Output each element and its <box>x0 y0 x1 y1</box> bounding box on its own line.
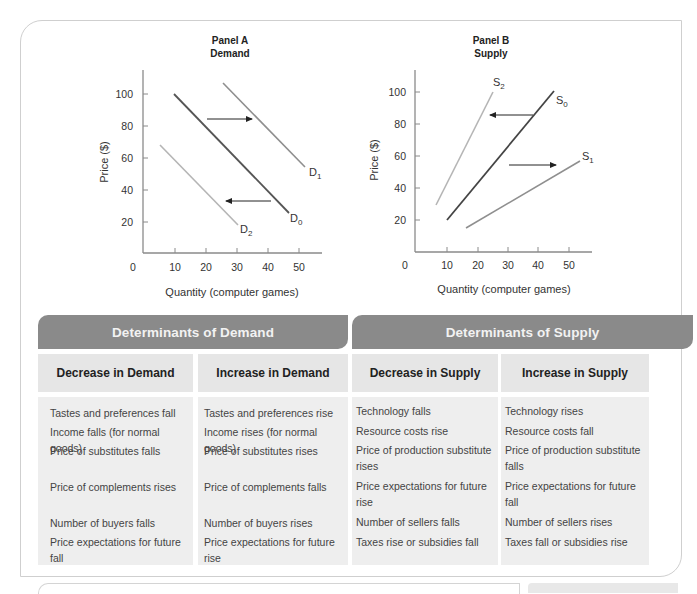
y-tick-labels: 100 80 60 40 20 <box>388 86 406 226</box>
svg-text:30: 30 <box>502 259 514 271</box>
label-d2: D2 <box>240 223 253 238</box>
supply-group-header: Determinants of Supply <box>352 315 693 349</box>
table-cell: Price of substitutes falls <box>50 443 187 459</box>
svg-text:20: 20 <box>121 216 133 228</box>
table-cell: Taxes fall or subsidies rise <box>505 534 643 550</box>
svg-text:40: 40 <box>532 259 544 271</box>
label-s0: S0 <box>556 94 568 109</box>
next-section-frame <box>38 583 520 594</box>
panel-a-x-axis-label: Quantity (computer games) <box>165 286 298 298</box>
decrease-supply-column: Technology falls Resource costs rise Pri… <box>352 397 498 565</box>
decrease-demand-header: Decrease in Demand <box>38 354 193 392</box>
svg-text:10: 10 <box>441 259 453 271</box>
svg-text:10: 10 <box>169 261 181 273</box>
table-cell: Number of sellers falls <box>356 514 492 530</box>
table-cell: Taxes rise or subsidies fall <box>356 534 492 550</box>
table-cell: Price expectations for future rise <box>204 534 342 566</box>
svg-text:40: 40 <box>394 182 406 194</box>
increase-supply-header: Increase in Supply <box>501 354 649 392</box>
table-cell: Tastes and preferences fall <box>50 405 187 421</box>
increase-supply-column: Technology rises Resource costs fall Pri… <box>501 397 649 565</box>
table-cell: Price expectations for future fall <box>50 534 187 566</box>
svg-text:100: 100 <box>388 86 406 98</box>
svg-text:50: 50 <box>293 261 305 273</box>
svg-text:0: 0 <box>402 259 408 271</box>
label-d0: D0 <box>290 212 303 227</box>
svg-text:50: 50 <box>563 259 575 271</box>
label-d1: D1 <box>309 166 322 181</box>
table-cell: Number of buyers falls <box>50 515 187 531</box>
table-cell: Price of substitutes rises <box>204 443 342 459</box>
svg-text:80: 80 <box>121 120 133 132</box>
svg-text:20: 20 <box>394 214 406 226</box>
demand-curve-d1 <box>223 83 305 167</box>
x-tick-labels: 0 10 20 30 40 50 <box>402 259 575 271</box>
table-cell: Price expectations for future fall <box>505 478 643 510</box>
table-cell: Tastes and preferences rise <box>204 405 342 421</box>
demand-curve-d0 <box>174 94 289 213</box>
svg-text:40: 40 <box>121 184 133 196</box>
demand-group-header: Determinants of Demand <box>38 315 348 349</box>
supply-curve-s2 <box>436 92 493 205</box>
svg-text:20: 20 <box>200 261 212 273</box>
panel-a-demand-chart: Panel A Demand 100 80 60 40 20 0 10 20 3… <box>98 35 322 298</box>
svg-text:80: 80 <box>394 118 406 130</box>
svg-text:60: 60 <box>121 152 133 164</box>
x-ticks <box>175 248 299 253</box>
panel-b-supply-chart: Panel B Supply 100 80 60 40 20 0 10 20 3… <box>368 35 594 295</box>
table-cell: Price of complements falls <box>204 479 342 495</box>
svg-text:40: 40 <box>262 261 274 273</box>
decrease-supply-header: Decrease in Supply <box>352 354 498 392</box>
table-cell: Resource costs rise <box>356 423 492 439</box>
table-cell: Number of buyers rises <box>204 515 342 531</box>
svg-text:30: 30 <box>231 261 243 273</box>
label-s2: S2 <box>493 76 505 91</box>
panel-a-y-axis-label: Price ($) <box>98 141 110 183</box>
svg-text:60: 60 <box>394 150 406 162</box>
increase-demand-column: Tastes and preferences rise Income rises… <box>198 397 348 565</box>
svg-text:20: 20 <box>472 259 484 271</box>
charts-svg: Panel A Demand 100 80 60 40 20 0 10 20 3… <box>0 0 697 310</box>
table-cell: Price of production substitute falls <box>505 442 643 474</box>
panel-b-title: Panel B <box>473 35 510 46</box>
supply-curve-s0 <box>447 91 554 220</box>
panel-a-subtitle: Demand <box>210 48 249 59</box>
label-s1: S1 <box>582 150 594 165</box>
table-cell: Price of production substitute rises <box>356 442 492 474</box>
x-ticks <box>447 247 569 252</box>
table-cell: Resource costs fall <box>505 423 643 439</box>
y-tick-labels: 100 80 60 40 20 <box>115 88 133 228</box>
table-cell: Price expectations for future rise <box>356 478 492 510</box>
table-cell: Number of sellers rises <box>505 514 643 530</box>
svg-text:100: 100 <box>115 88 133 100</box>
y-ticks <box>143 94 148 222</box>
panel-a-title: Panel A <box>212 35 248 46</box>
x-tick-labels: 0 10 20 30 40 50 <box>130 261 305 273</box>
panel-b-subtitle: Supply <box>474 48 508 59</box>
y-ticks <box>415 92 420 220</box>
svg-text:0: 0 <box>130 261 136 273</box>
supply-curve-s1 <box>466 161 580 228</box>
table-cell: Technology falls <box>356 403 492 419</box>
table-cell: Technology rises <box>505 403 643 419</box>
panel-b-x-axis-label: Quantity (computer games) <box>437 283 570 295</box>
panel-b-y-axis-label: Price ($) <box>368 139 380 181</box>
demand-curve-d2 <box>160 145 238 225</box>
table-cell: Price of complements rises <box>50 479 187 495</box>
increase-demand-header: Increase in Demand <box>198 354 348 392</box>
decrease-demand-column: Tastes and preferences fall Income falls… <box>38 397 193 565</box>
next-section-sidebar <box>528 583 678 593</box>
